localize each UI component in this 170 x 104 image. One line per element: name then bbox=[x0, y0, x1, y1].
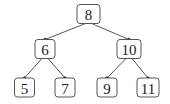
edge-n8-n10 bbox=[92, 24, 130, 40]
edge-n6-n7 bbox=[48, 59, 65, 79]
node-label: 10 bbox=[122, 42, 137, 58]
tree-node-7: 7 bbox=[55, 78, 75, 97]
node-label: 9 bbox=[103, 81, 111, 97]
node-label: 5 bbox=[21, 81, 29, 97]
tree-node-9: 9 bbox=[97, 78, 117, 97]
tree-node-6: 6 bbox=[35, 40, 55, 59]
tree-node-5: 5 bbox=[15, 78, 35, 97]
node-label: 11 bbox=[141, 81, 155, 97]
tree-node-11: 11 bbox=[137, 78, 159, 97]
node-label: 6 bbox=[41, 42, 49, 58]
node-label: 7 bbox=[61, 81, 69, 97]
tree-node-8: 8 bbox=[77, 5, 100, 24]
tree-diagram: 861057911 bbox=[0, 0, 170, 104]
edge-n10-n11 bbox=[132, 59, 148, 79]
edge-n8-n6 bbox=[45, 24, 86, 40]
nodes-layer: 861057911 bbox=[15, 5, 160, 98]
edge-n6-n5 bbox=[25, 59, 43, 79]
edge-n10-n9 bbox=[107, 59, 126, 79]
tree-node-10: 10 bbox=[117, 40, 141, 59]
node-label: 8 bbox=[85, 7, 93, 23]
